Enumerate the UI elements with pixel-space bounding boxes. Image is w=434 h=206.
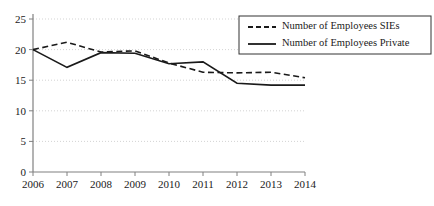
y-tick-label: 0 [21, 166, 27, 178]
x-tick-label: 2006 [22, 178, 45, 190]
legend-label: Number of Employees Private [282, 37, 410, 48]
x-tick-label: 2007 [56, 178, 79, 190]
x-tick-label: 2008 [90, 178, 113, 190]
x-tick-label: 2012 [226, 178, 248, 190]
y-tick-label: 10 [15, 105, 27, 117]
x-tick-label: 2013 [260, 178, 283, 190]
y-tick-label: 15 [15, 74, 27, 86]
y-tick-label: 25 [15, 13, 27, 25]
line-chart: 0510152025 20062007200820092010201120122… [0, 0, 434, 206]
x-tick-label: 2011 [192, 178, 214, 190]
chart-canvas: 0510152025 20062007200820092010201120122… [0, 0, 434, 206]
x-tick-label: 2010 [158, 178, 181, 190]
y-tick-label: 5 [21, 135, 27, 147]
legend-label: Number of Employees SIEs [282, 20, 400, 31]
x-tick-label: 2009 [124, 178, 147, 190]
chart-legend: Number of Employees SIEsNumber of Employ… [239, 16, 431, 54]
y-tick-label: 20 [15, 44, 27, 56]
x-tick-label: 2014 [294, 178, 317, 190]
